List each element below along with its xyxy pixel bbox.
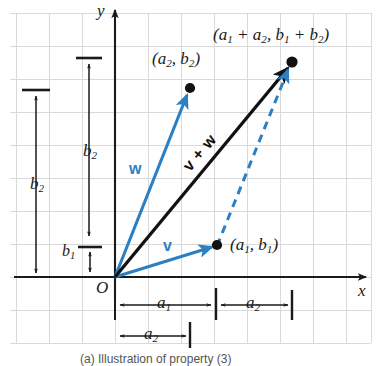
measure-label-b2-inner: b2	[83, 142, 97, 161]
axis-label-x: x	[358, 282, 366, 299]
measure-label-a1: a1	[157, 294, 171, 313]
point-sum	[286, 56, 297, 67]
point-a2-b2	[185, 83, 195, 93]
point-label-sum: (a1 + a2, b1 + b2)	[213, 26, 329, 45]
measure-label-a2-right: a2	[246, 294, 260, 313]
origin-label: O	[96, 279, 108, 296]
measure-label-a2-lower: a2	[144, 325, 158, 344]
vector-label-v: v	[163, 238, 172, 254]
vector-w-translated-dashed	[217, 70, 288, 246]
point-label-a2-b2: (a2, b2)	[152, 50, 200, 69]
point-a1-b1	[212, 240, 222, 250]
axis-label-y: y	[97, 2, 105, 19]
point-label-a1-b1: (a1, b1)	[230, 236, 278, 255]
measure-label-b1: b1	[62, 243, 75, 262]
vector-w-line	[115, 95, 187, 277]
figure-caption: (a) Illustration of property (3)	[80, 352, 231, 366]
vector-label-w: w	[129, 161, 141, 177]
measure-label-b2-outer: b2	[30, 175, 44, 194]
